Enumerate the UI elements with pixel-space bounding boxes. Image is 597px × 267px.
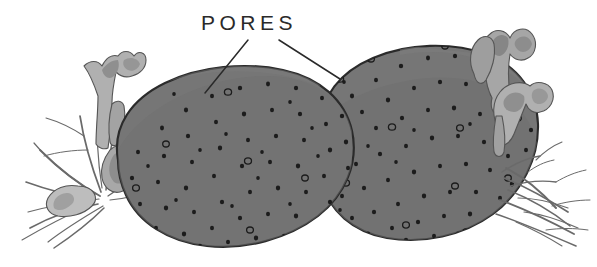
sponge-illustration: PORES bbox=[0, 0, 597, 267]
pores-label: PORES bbox=[201, 11, 297, 34]
left-sponge-body bbox=[117, 66, 354, 250]
illustration-canvas: PORES bbox=[0, 0, 597, 267]
